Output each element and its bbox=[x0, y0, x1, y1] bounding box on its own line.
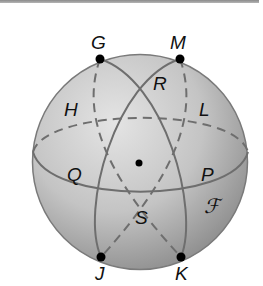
sphere-diagram bbox=[0, 0, 263, 286]
label-K: K bbox=[175, 264, 188, 283]
point-M bbox=[176, 55, 185, 64]
label-J: J bbox=[95, 264, 105, 283]
label-plane-F: ℱ bbox=[204, 196, 220, 216]
label-R: R bbox=[153, 74, 167, 93]
point-K bbox=[177, 253, 186, 262]
point-G bbox=[96, 55, 105, 64]
label-M: M bbox=[170, 33, 186, 52]
label-L: L bbox=[199, 100, 210, 119]
point-J bbox=[97, 253, 106, 262]
label-H: H bbox=[64, 100, 78, 119]
label-G: G bbox=[91, 33, 106, 52]
label-S: S bbox=[135, 208, 148, 227]
label-P: P bbox=[201, 165, 214, 184]
center-point bbox=[136, 160, 143, 167]
label-Q: Q bbox=[67, 165, 82, 184]
